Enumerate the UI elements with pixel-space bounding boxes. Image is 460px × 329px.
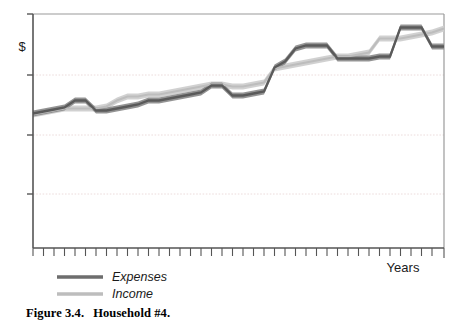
y-axis-ticks [27, 14, 33, 194]
figure-caption-number: Figure 3.4. [26, 306, 84, 320]
figure-container: $ Years Expenses Income Figure 3.4.House… [0, 0, 460, 329]
x-axis-ticks [33, 248, 444, 258]
figure-caption: Figure 3.4.Household #4. [26, 306, 170, 321]
household-4-area-chart: $ Years Expenses Income [0, 0, 460, 329]
y-axis-title: $ [18, 39, 26, 54]
x-axis-title: Years [387, 260, 420, 275]
legend-label-expenses: Expenses [112, 270, 167, 284]
legend: Expenses Income [57, 270, 167, 301]
plot-background [33, 14, 444, 248]
legend-label-income: Income [112, 287, 153, 301]
figure-caption-title: Household #4. [93, 306, 170, 320]
